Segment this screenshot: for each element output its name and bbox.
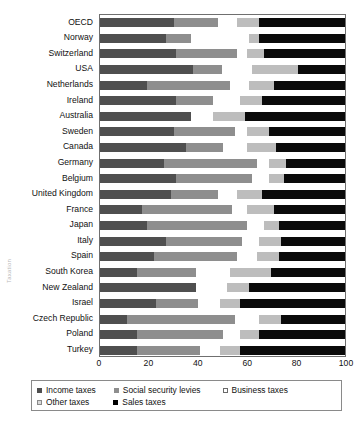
bar-segment bbox=[247, 49, 264, 58]
category-label: Ireland bbox=[67, 95, 93, 105]
bar-segment bbox=[237, 49, 247, 58]
category-label: Poland bbox=[66, 328, 93, 338]
bar-segment bbox=[171, 190, 218, 199]
category-label: Belgium bbox=[62, 173, 93, 183]
legend-item[interactable]: Income taxes bbox=[37, 385, 96, 395]
legend-swatch-icon bbox=[37, 388, 42, 393]
bar-segment bbox=[191, 34, 250, 43]
bar-segment bbox=[137, 346, 201, 355]
legend-row-primary: Income taxesSocial security leviesBusine… bbox=[37, 384, 336, 396]
bar-segment bbox=[220, 299, 240, 308]
bar-segment bbox=[279, 252, 345, 261]
legend-swatch-icon bbox=[223, 388, 228, 393]
bar-segment bbox=[249, 283, 345, 292]
bar-segment bbox=[242, 237, 259, 246]
x-tick-label: 100 bbox=[339, 358, 353, 368]
bar-segment bbox=[213, 96, 240, 105]
bar-segment bbox=[218, 18, 238, 27]
category-label: South Korea bbox=[45, 266, 93, 276]
legend-label: Social security levies bbox=[123, 385, 201, 395]
bar-segment bbox=[247, 127, 269, 136]
bar-segment bbox=[257, 252, 279, 261]
x-tick-label: 80 bbox=[292, 358, 302, 368]
bar-segment bbox=[100, 143, 186, 152]
category-label: New Zealand bbox=[42, 282, 93, 292]
bar-segment bbox=[259, 237, 281, 246]
x-tick-label: 40 bbox=[193, 358, 203, 368]
bar-segment bbox=[230, 81, 250, 90]
legend-swatch-icon bbox=[114, 388, 119, 393]
legend-item[interactable]: Sales taxes bbox=[113, 397, 165, 407]
bar-segment bbox=[259, 18, 345, 27]
bar-segment bbox=[137, 268, 196, 277]
bar-segment bbox=[264, 49, 345, 58]
bar-segment bbox=[154, 252, 237, 261]
bar-segment bbox=[223, 143, 248, 152]
bar-segment bbox=[230, 268, 272, 277]
bar-segment bbox=[196, 268, 230, 277]
bar-segment bbox=[191, 112, 213, 121]
bar-israel bbox=[100, 299, 345, 308]
category-label: OECD bbox=[68, 17, 93, 27]
bar-segment bbox=[298, 65, 345, 74]
legend-item[interactable]: Social security levies bbox=[114, 385, 201, 395]
x-tick-label: 0 bbox=[97, 358, 102, 368]
bar-segment bbox=[264, 221, 279, 230]
x-axis-ticks: 020406080100 bbox=[99, 358, 346, 372]
bar-segment bbox=[237, 252, 257, 261]
bar-segment bbox=[237, 18, 259, 27]
bar-segment bbox=[279, 221, 345, 230]
bar-france bbox=[100, 205, 345, 214]
bar-segment bbox=[269, 159, 286, 168]
category-label: Norway bbox=[64, 32, 93, 42]
bar-segment bbox=[147, 81, 230, 90]
bar-segment bbox=[100, 330, 137, 339]
legend-item[interactable]: Other taxes bbox=[37, 397, 89, 407]
legend-item[interactable]: Business taxes bbox=[223, 385, 288, 395]
bar-usa bbox=[100, 65, 345, 74]
category-label: USA bbox=[75, 63, 93, 73]
bar-segment bbox=[100, 190, 171, 199]
bar-japan bbox=[100, 221, 345, 230]
bar-canada bbox=[100, 143, 345, 152]
legend-label: Other taxes bbox=[46, 397, 89, 407]
bar-segment bbox=[196, 283, 228, 292]
bar-south-korea bbox=[100, 268, 345, 277]
category-label: Italy bbox=[77, 235, 93, 245]
bar-spain bbox=[100, 252, 345, 261]
stacked-bar-chart: Taxation OECDNorwaySwitzerlandUSANetherl… bbox=[0, 0, 358, 423]
category-label: Spain bbox=[71, 250, 93, 260]
bar-segment bbox=[100, 205, 142, 214]
bar-rows bbox=[100, 15, 345, 356]
bar-segment bbox=[176, 96, 213, 105]
bar-segment bbox=[198, 299, 220, 308]
category-label: Turkey bbox=[67, 344, 93, 354]
category-axis-labels: OECDNorwaySwitzerlandUSANetherlandsIrela… bbox=[0, 14, 96, 357]
category-label: Israel bbox=[72, 297, 93, 307]
bar-segment bbox=[222, 65, 251, 74]
bar-segment bbox=[100, 96, 176, 105]
bar-segment bbox=[100, 34, 166, 43]
bar-segment bbox=[237, 190, 262, 199]
bar-segment bbox=[193, 65, 222, 74]
bar-segment bbox=[176, 174, 252, 183]
bar-segment bbox=[240, 299, 345, 308]
bar-switzerland bbox=[100, 49, 345, 58]
bar-segment bbox=[220, 346, 240, 355]
bar-segment bbox=[100, 65, 193, 74]
bar-turkey bbox=[100, 346, 345, 355]
bar-segment bbox=[100, 237, 166, 246]
bar-segment bbox=[276, 143, 345, 152]
bar-australia bbox=[100, 112, 345, 121]
bar-segment bbox=[174, 127, 235, 136]
bar-segment bbox=[281, 237, 345, 246]
bar-segment bbox=[100, 346, 137, 355]
bar-segment bbox=[252, 65, 299, 74]
bar-segment bbox=[223, 330, 240, 339]
category-label: Sweden bbox=[62, 126, 93, 136]
bar-segment bbox=[240, 96, 262, 105]
bar-segment bbox=[213, 112, 245, 121]
bar-segment bbox=[100, 221, 147, 230]
bar-segment bbox=[232, 205, 247, 214]
bar-segment bbox=[286, 159, 345, 168]
